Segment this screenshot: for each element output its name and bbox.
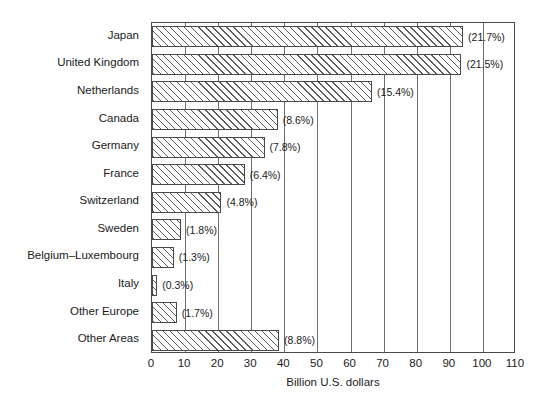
bar-row: (8.6%)	[152, 109, 516, 130]
bar-percent-label: (6.4%)	[245, 169, 281, 181]
bar-chart: JapanUnited KingdomNetherlandsCanadaGerm…	[0, 0, 535, 414]
bar-france	[152, 164, 245, 185]
bar-row: (4.8%)	[152, 192, 516, 213]
category-label-netherlands: Netherlands	[77, 84, 139, 97]
category-label-germany: Germany	[92, 139, 139, 152]
x-tick-20: 20	[211, 356, 224, 370]
bar-united-kingdom	[152, 54, 461, 75]
bar-row: (1.8%)	[152, 219, 516, 240]
bar-canada	[152, 109, 278, 130]
bar-percent-label: (15.4%)	[372, 86, 414, 98]
category-axis-labels: JapanUnited KingdomNetherlandsCanadaGerm…	[0, 22, 145, 353]
bar-row: (7.8%)	[152, 137, 516, 158]
bar-switzerland	[152, 192, 221, 213]
x-tick-70: 70	[376, 356, 389, 370]
category-label-other-areas: Other Areas	[78, 332, 139, 345]
category-label-sweden: Sweden	[97, 222, 139, 235]
bar-percent-label: (1.8%)	[181, 224, 217, 236]
bar-row: (6.4%)	[152, 164, 516, 185]
x-tick-10: 10	[178, 356, 191, 370]
bar-percent-label: (4.8%)	[221, 196, 257, 208]
x-tick-40: 40	[277, 356, 290, 370]
bar-row: (0.3%)	[152, 275, 516, 296]
x-tick-90: 90	[442, 356, 455, 370]
category-label-france: France	[103, 167, 139, 180]
x-tick-0: 0	[148, 356, 154, 370]
category-label-japan: Japan	[108, 29, 139, 42]
category-label-switzerland: Switzerland	[80, 194, 139, 207]
bar-sweden	[152, 219, 181, 240]
bar-percent-label: (1.3%)	[174, 251, 210, 263]
bar-row: (8.8%)	[152, 330, 516, 351]
bar-belgium-luxembourg	[152, 247, 174, 268]
category-label-other-europe: Other Europe	[70, 305, 139, 318]
category-label-belgium-luxembourg: Belgium–Luxembourg	[27, 249, 139, 262]
bar-percent-label: (1.7%)	[177, 307, 213, 319]
category-label-united-kingdom: United Kingdom	[57, 56, 139, 69]
bar-netherlands	[152, 81, 372, 102]
x-tick-80: 80	[409, 356, 422, 370]
bar-other-areas	[152, 330, 279, 351]
bar-percent-label: (8.6%)	[278, 114, 314, 126]
bar-germany	[152, 137, 265, 158]
x-axis-title: Billion U.S. dollars	[151, 375, 515, 389]
bar-row: (21.7%)	[152, 26, 516, 47]
bar-row: (15.4%)	[152, 81, 516, 102]
x-tick-60: 60	[343, 356, 356, 370]
bar-percent-label: (8.8%)	[279, 334, 315, 346]
bar-row: (1.7%)	[152, 302, 516, 323]
category-label-canada: Canada	[99, 112, 139, 125]
x-axis-tick-labels: 0102030405060708090100110	[151, 356, 515, 372]
bar-row: (21.5%)	[152, 54, 516, 75]
bar-percent-label: (21.5%)	[461, 58, 503, 70]
x-tick-100: 100	[472, 356, 491, 370]
category-label-italy: Italy	[118, 277, 139, 290]
bar-percent-label: (7.8%)	[265, 141, 301, 153]
x-tick-30: 30	[244, 356, 257, 370]
plot-area: (21.7%)(21.5%)(15.4%)(8.6%)(7.8%)(6.4%)(…	[151, 22, 515, 353]
bar-percent-label: (21.7%)	[463, 31, 505, 43]
x-tick-110: 110	[506, 356, 524, 370]
bar-percent-label: (0.3%)	[157, 279, 193, 291]
x-tick-50: 50	[310, 356, 323, 370]
bar-row: (1.3%)	[152, 247, 516, 268]
bar-other-europe	[152, 302, 177, 323]
bar-japan	[152, 26, 463, 47]
